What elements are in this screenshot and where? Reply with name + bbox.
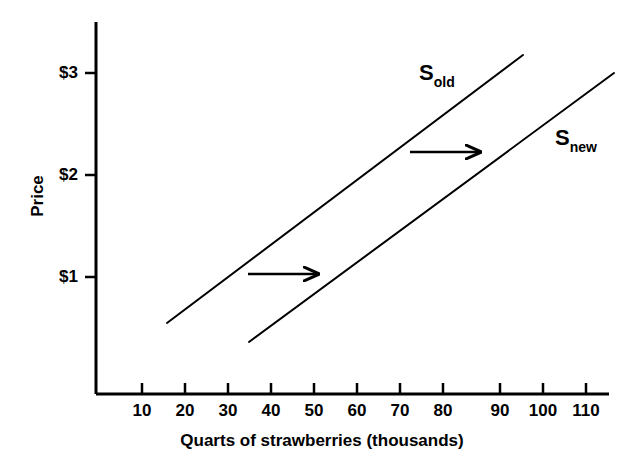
x-tick-label-50: 50	[305, 401, 324, 421]
curve-label-s-new: Snew	[555, 127, 597, 151]
curve-label-s-new-base: S	[555, 125, 570, 150]
curve-label-s-old-subscript: old	[434, 74, 455, 90]
x-axis-ticks	[142, 383, 586, 394]
x-tick-label-70: 70	[391, 401, 410, 421]
curve-label-s-new-subscript: new	[570, 139, 597, 155]
y-tick-label-3: $3	[36, 63, 78, 83]
y-axis-ticks	[85, 73, 96, 277]
supply-curve-old	[167, 55, 523, 323]
x-tick-label-30: 30	[219, 401, 238, 421]
x-tick-label-20: 20	[176, 401, 195, 421]
x-tick-label-10: 10	[133, 401, 152, 421]
x-tick-label-100: 100	[529, 401, 557, 421]
supply-curve-new	[249, 73, 614, 342]
x-tick-label-90: 90	[491, 401, 510, 421]
x-tick-label-40: 40	[262, 401, 281, 421]
x-tick-label-60: 60	[348, 401, 367, 421]
y-tick-label-1: $1	[36, 267, 78, 287]
x-tick-label-80: 80	[434, 401, 453, 421]
x-tick-label-110: 110	[572, 401, 599, 421]
curve-label-s-old-base: S	[419, 60, 434, 85]
y-axis-title: Price	[28, 175, 48, 217]
curve-label-s-old: Sold	[419, 62, 455, 86]
x-axis-title: Quarts of strawberries (thousands)	[180, 431, 463, 451]
supply-shift-chart: $1 $2 $3 10 20 30 40 50 60 70 80 90 100 …	[0, 0, 642, 472]
